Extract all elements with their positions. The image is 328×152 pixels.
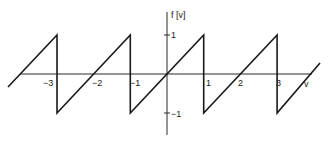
x-tick-label-3: 3 [276,78,281,88]
x-tick-label-minus-3: −3 [43,78,53,88]
x-axis-label: v [304,79,309,89]
y-tick-label-1: 1 [171,30,176,40]
y-axis-label: f [v] [171,10,186,20]
x-tick-label-2: 2 [238,78,243,88]
x-tick-label-minus-1: −1 [130,78,140,88]
x-tick-label-1: 1 [206,78,211,88]
sawtooth-plot: f [v] v −3 −2 −1 1 2 3 1 −1 [0,0,328,152]
x-tick-label-minus-2: −2 [92,78,102,88]
y-tick-label-minus-1: −1 [171,109,181,119]
